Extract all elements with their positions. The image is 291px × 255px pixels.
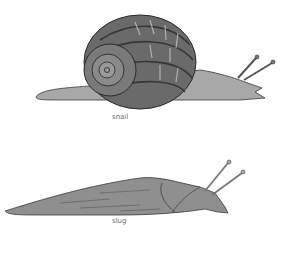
slug-caption: slug xyxy=(112,217,126,225)
snail-illustration xyxy=(0,0,291,110)
slug-illustration xyxy=(0,155,291,235)
snail-caption: snail xyxy=(112,113,128,121)
